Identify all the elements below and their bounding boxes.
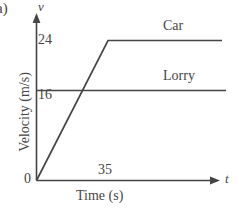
x-axis bbox=[37, 177, 221, 185]
series-label-lorry: Lorry bbox=[163, 69, 195, 83]
x-axis-symbol: t bbox=[225, 172, 229, 185]
y-axis-title: Velocity (m/s) bbox=[18, 57, 32, 167]
x-tick-label-35: 35 bbox=[98, 163, 112, 177]
y-axis-arrowhead bbox=[33, 13, 41, 23]
velocity-time-graph-figure: a) v t Velocity (m/s) Time (s) 24 16 0 3… bbox=[0, 0, 239, 210]
x-axis-title: Time (s) bbox=[76, 189, 123, 203]
series-label-car: Car bbox=[163, 19, 183, 33]
x-axis-arrowhead bbox=[210, 177, 220, 185]
part-label: a) bbox=[0, 1, 8, 16]
graph-canvas bbox=[0, 0, 239, 210]
series-line-car bbox=[37, 41, 223, 181]
y-tick-label-16: 16 bbox=[38, 88, 52, 102]
y-tick-label-24: 24 bbox=[38, 33, 52, 47]
origin-label: 0 bbox=[24, 172, 31, 186]
y-axis-symbol: v bbox=[38, 0, 44, 13]
